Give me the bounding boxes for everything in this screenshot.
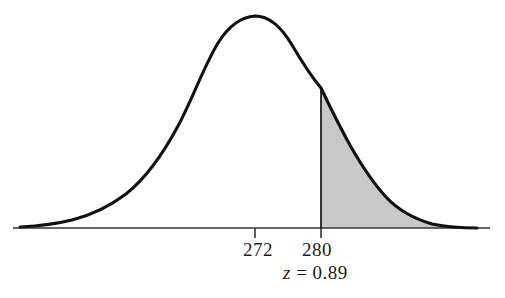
normal-curve-path bbox=[20, 16, 477, 228]
z-variable-symbol: z bbox=[283, 262, 291, 283]
axis-tick-label-272: 272 bbox=[243, 240, 273, 259]
z-score-annotation: z = 0.89 bbox=[283, 263, 348, 282]
axis-tick-label-280: 280 bbox=[302, 240, 332, 259]
z-value-text: = 0.89 bbox=[291, 262, 348, 283]
